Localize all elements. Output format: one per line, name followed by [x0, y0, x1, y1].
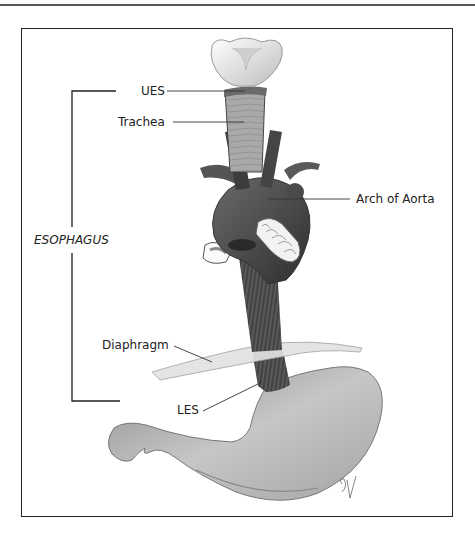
label-ues: UES: [141, 84, 165, 98]
label-esophagus: ESOPHAGUS: [34, 233, 109, 247]
anatomy-illustration: [0, 0, 475, 537]
label-diaphragm: Diaphragm: [102, 338, 169, 352]
label-les: LES: [177, 403, 199, 417]
stomach: [108, 367, 382, 501]
signature: [340, 476, 356, 498]
label-trachea: Trachea: [118, 115, 165, 129]
trachea: [225, 90, 265, 172]
label-arch-of-aorta: Arch of Aorta: [356, 192, 435, 206]
